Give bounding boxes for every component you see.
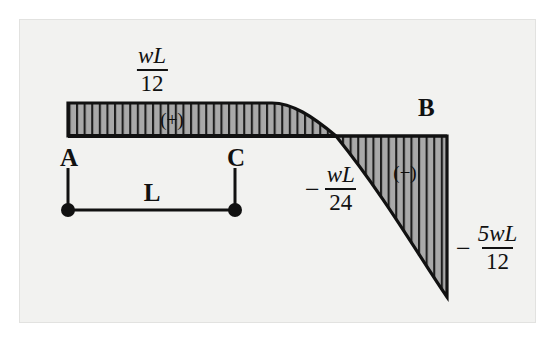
annotation-at-point-b: − 5wL 12 bbox=[456, 222, 521, 274]
b-numerator: 5wL bbox=[478, 221, 518, 246]
negative-moment-area bbox=[330, 130, 455, 305]
peak-numerator: wL bbox=[138, 43, 166, 68]
moment-diagram-svg bbox=[0, 0, 555, 341]
point-label-c: C bbox=[227, 145, 245, 170]
point-label-b: B bbox=[418, 95, 435, 120]
c-minus-sign: − bbox=[305, 177, 320, 203]
b-minus-sign: − bbox=[456, 236, 471, 262]
positive-sign-label: (+) bbox=[160, 110, 183, 129]
negative-sign-label: (−) bbox=[393, 163, 416, 182]
c-numerator: wL bbox=[327, 162, 355, 187]
peak-denominator: 12 bbox=[136, 69, 167, 96]
annotation-at-point-c: − wL 24 bbox=[305, 163, 359, 215]
bending-moment-figure: wL 12 (+) (−) A C B L − wL 24 − 5wL 12 bbox=[0, 0, 555, 341]
point-label-a: A bbox=[60, 145, 78, 170]
b-denominator: 12 bbox=[482, 247, 513, 274]
annotation-peak-positive: wL 12 bbox=[134, 44, 170, 96]
c-denominator: 24 bbox=[325, 188, 356, 215]
span-length-label: L bbox=[144, 180, 161, 205]
